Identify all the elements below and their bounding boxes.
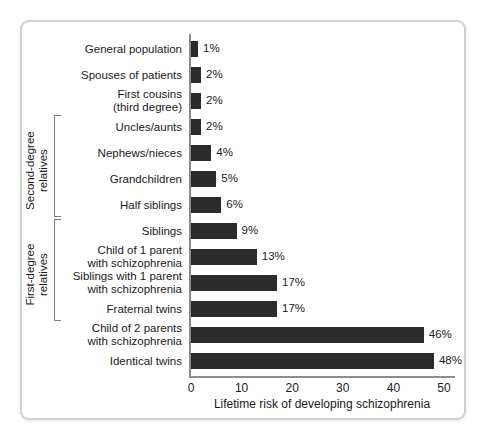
x-tick-label: 20 (286, 380, 299, 396)
x-axis-line (189, 376, 455, 378)
bar-value-label: 2% (206, 65, 223, 83)
x-axis-title: Lifetime risk of developing schizophreni… (189, 396, 455, 412)
bar (191, 197, 221, 213)
group-bracket (54, 219, 61, 321)
bar (191, 119, 201, 135)
category-label: Spouses of patients (0, 62, 182, 88)
group-bracket-label: First-degree relatives (24, 224, 49, 326)
bar-value-label: 9% (242, 221, 259, 239)
bar-value-label: 1% (203, 39, 220, 57)
x-tick-label: 10 (235, 380, 248, 396)
category-label: Child of 2 parents with schizophrenia (0, 322, 182, 348)
bar-value-label: 2% (206, 91, 223, 109)
category-label-text: First cousins (third degree) (0, 88, 182, 113)
bar-value-label: 48% (439, 351, 462, 369)
bar-value-label: 6% (226, 195, 243, 213)
bar (191, 249, 257, 265)
bar (191, 327, 424, 343)
bar-value-label: 46% (429, 325, 452, 343)
category-label-text: Spouses of patients (0, 69, 182, 82)
category-label-text: Child of 2 parents with schizophrenia (0, 322, 182, 347)
bar-value-label: 17% (282, 273, 305, 291)
x-tick-label: 40 (387, 380, 400, 396)
bar (191, 145, 211, 161)
bar (191, 275, 277, 291)
category-label: First cousins (third degree) (0, 88, 182, 114)
plot-area: 1%2%2%2%4%5%6%9%13%17%17%46%48% (191, 36, 444, 374)
category-label: General population (0, 36, 182, 62)
bar (191, 67, 201, 83)
bar (191, 301, 277, 317)
bar (191, 223, 237, 239)
bar-value-label: 5% (221, 169, 238, 187)
bar-value-label: 17% (282, 299, 305, 317)
category-label-text: General population (0, 43, 182, 56)
x-tick-label: 50 (437, 380, 450, 396)
category-label-text: Identical twins (0, 355, 182, 368)
group-bracket (54, 115, 61, 217)
x-tick-label: 30 (336, 380, 349, 396)
bar-value-label: 4% (216, 143, 233, 161)
bar (191, 171, 216, 187)
bar (191, 353, 434, 369)
figure-root: General populationSpouses of patientsFir… (0, 0, 488, 438)
bar (191, 93, 201, 109)
group-bracket-label: Second-degree relatives (24, 120, 49, 222)
bar-value-label: 13% (262, 247, 285, 265)
bar-value-label: 2% (206, 117, 223, 135)
category-label: Identical twins (0, 348, 182, 374)
x-tick-label: 0 (188, 380, 195, 396)
bar (191, 41, 198, 57)
